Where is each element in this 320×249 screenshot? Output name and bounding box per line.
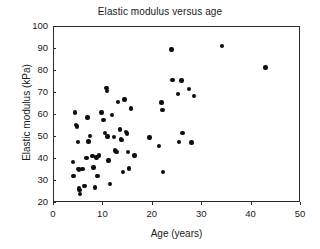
y-axis-tick-mark — [53, 92, 56, 93]
chart-title: Elastic modulus versus age — [0, 6, 320, 17]
x-axis-label: Age (years) — [53, 228, 300, 239]
x-axis-tick-label: 40 — [238, 209, 264, 219]
y-axis-tick-mark — [53, 114, 56, 115]
x-axis-tick-mark — [53, 202, 54, 205]
x-axis-tick-mark — [102, 202, 103, 205]
y-axis-label: Elastic modulus (kPa) — [21, 25, 32, 201]
scatter-plot-figure: Elastic modulus versus age 2030405060708… — [0, 0, 320, 249]
y-axis-tick-mark — [53, 70, 56, 71]
x-axis-tick-label: 50 — [287, 209, 313, 219]
y-axis-tick-mark — [53, 48, 56, 49]
plot-frame — [53, 26, 300, 202]
x-axis-tick-label: 20 — [139, 209, 165, 219]
y-axis-tick-mark — [53, 136, 56, 137]
x-axis-tick-label: 10 — [89, 209, 115, 219]
x-axis-tick-mark — [152, 202, 153, 205]
x-axis-tick-mark — [251, 202, 252, 205]
y-axis-tick-mark — [53, 158, 56, 159]
x-axis-tick-mark — [300, 202, 301, 205]
y-axis-tick-mark — [53, 180, 56, 181]
x-axis-tick-mark — [201, 202, 202, 205]
y-axis-tick-mark — [53, 26, 56, 27]
x-axis-tick-label: 0 — [40, 209, 66, 219]
x-axis-tick-label: 30 — [188, 209, 214, 219]
